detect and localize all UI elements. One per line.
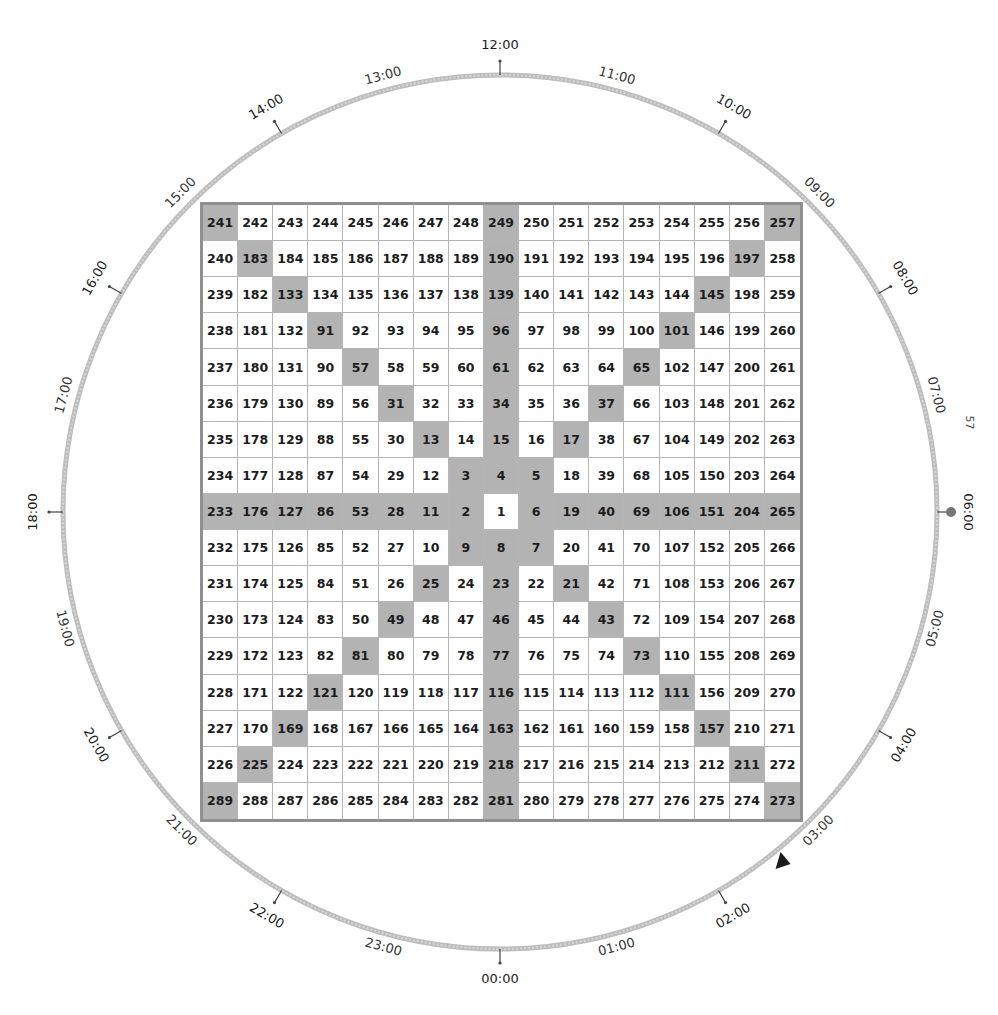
hour-label-17-00: 17:00 <box>51 375 75 415</box>
grid-cell: 51 <box>343 566 378 602</box>
grid-cell: 105 <box>660 458 695 494</box>
grid-cell: 156 <box>695 675 730 711</box>
stray-text: 57 <box>963 416 976 430</box>
grid-cell: 23 <box>484 566 519 602</box>
grid-cell: 61 <box>484 349 519 385</box>
grid-cell: 280 <box>519 783 554 819</box>
grid-cell: 237 <box>203 349 238 385</box>
grid-cell: 32 <box>414 386 449 422</box>
grid-cell: 97 <box>519 313 554 349</box>
grid-cell: 71 <box>624 566 659 602</box>
grid-cell: 252 <box>589 205 624 241</box>
grid-cell: 194 <box>624 241 659 277</box>
grid-cell: 31 <box>379 386 414 422</box>
grid-cell: 173 <box>238 602 273 638</box>
grid-cell: 270 <box>765 675 800 711</box>
grid-cell: 214 <box>624 747 659 783</box>
grid-cell: 266 <box>765 530 800 566</box>
grid-cell: 181 <box>238 313 273 349</box>
grid-cell: 73 <box>624 638 659 674</box>
grid-cell: 130 <box>273 386 308 422</box>
hour-label-14-00: 14:00 <box>246 91 286 123</box>
grid-cell: 221 <box>379 747 414 783</box>
grid-cell: 7 <box>519 530 554 566</box>
grid-cell: 278 <box>589 783 624 819</box>
hour-label-18-00: 18:00 <box>25 493 40 530</box>
grid-cell: 216 <box>554 747 589 783</box>
grid-cell: 282 <box>449 783 484 819</box>
grid-cell: 77 <box>484 638 519 674</box>
grid-cell: 250 <box>519 205 554 241</box>
grid-cell: 27 <box>379 530 414 566</box>
grid-cell: 208 <box>730 638 765 674</box>
grid-cell: 80 <box>379 638 414 674</box>
grid-cell: 268 <box>765 602 800 638</box>
grid-cell: 226 <box>203 747 238 783</box>
hour-label-06-00: 06:00 <box>961 493 976 530</box>
hour-label-00-00: 00:00 <box>481 971 518 986</box>
grid-cell: 68 <box>624 458 659 494</box>
grid-cell: 48 <box>414 602 449 638</box>
grid-cell: 114 <box>554 675 589 711</box>
grid-cell: 84 <box>308 566 343 602</box>
grid-cell: 65 <box>624 349 659 385</box>
grid-cell: 229 <box>203 638 238 674</box>
grid-cell: 63 <box>554 349 589 385</box>
grid-cell: 131 <box>273 349 308 385</box>
grid-cell: 202 <box>730 422 765 458</box>
grid-cell: 210 <box>730 711 765 747</box>
grid-cell: 1 <box>484 494 519 530</box>
grid-cell: 126 <box>273 530 308 566</box>
grid-cell: 11 <box>414 494 449 530</box>
grid-cell: 251 <box>554 205 589 241</box>
grid-cell: 132 <box>273 313 308 349</box>
grid-cell: 164 <box>449 711 484 747</box>
grid-cell: 20 <box>554 530 589 566</box>
grid-cell: 176 <box>238 494 273 530</box>
hour-label-20-00: 20:00 <box>81 725 113 765</box>
grid-cell: 81 <box>343 638 378 674</box>
grid-cell: 128 <box>273 458 308 494</box>
grid-cell: 276 <box>660 783 695 819</box>
grid-cell: 15 <box>484 422 519 458</box>
grid-cell: 8 <box>484 530 519 566</box>
grid-cell: 204 <box>730 494 765 530</box>
grid-cell: 98 <box>554 313 589 349</box>
grid-cell: 163 <box>484 711 519 747</box>
grid-cell: 217 <box>519 747 554 783</box>
grid-cell: 158 <box>660 711 695 747</box>
hour-tick <box>719 890 726 902</box>
grid-cell: 99 <box>589 313 624 349</box>
grid-cell: 255 <box>695 205 730 241</box>
hour-tick <box>275 121 282 133</box>
grid-cell: 236 <box>203 386 238 422</box>
grid-cell: 257 <box>765 205 800 241</box>
grid-cell: 241 <box>203 205 238 241</box>
grid-cell: 141 <box>554 277 589 313</box>
hour-label-15-00: 15:00 <box>162 174 199 211</box>
grid-cell: 115 <box>519 675 554 711</box>
grid-cell: 155 <box>695 638 730 674</box>
grid-cell: 222 <box>343 747 378 783</box>
grid-cell: 24 <box>449 566 484 602</box>
grid-cell: 160 <box>589 711 624 747</box>
grid-cell: 179 <box>238 386 273 422</box>
grid-cell: 88 <box>308 422 343 458</box>
grid-cell: 47 <box>449 602 484 638</box>
grid-cell: 269 <box>765 638 800 674</box>
hour-label-07-00: 07:00 <box>925 375 949 415</box>
grid-cell: 212 <box>695 747 730 783</box>
grid-cell: 109 <box>660 602 695 638</box>
grid-cell: 57 <box>343 349 378 385</box>
hour-label-10-00: 10:00 <box>714 91 754 123</box>
hour-tick <box>275 890 282 902</box>
tick-dot-icon <box>724 901 727 904</box>
tick-dot-icon <box>108 285 111 288</box>
grid-cell: 193 <box>589 241 624 277</box>
grid-cell: 142 <box>589 277 624 313</box>
grid-cell: 203 <box>730 458 765 494</box>
grid-cell: 17 <box>554 422 589 458</box>
grid-cell: 197 <box>730 241 765 277</box>
hour-label-03-00: 03:00 <box>800 812 837 849</box>
grid-cell: 178 <box>238 422 273 458</box>
